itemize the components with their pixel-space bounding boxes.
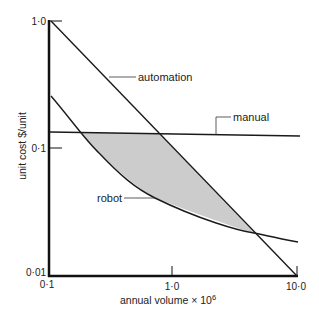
x-tick-label-10: 10·0 <box>286 281 306 292</box>
x-axis-title-exp: 6 <box>212 293 216 302</box>
robot-label: robot <box>97 192 122 204</box>
manual-label: manual <box>233 111 269 123</box>
y-tick-label-1: 1·0 <box>32 16 47 27</box>
automation-line <box>51 21 297 276</box>
robot-advantage-region <box>81 133 254 233</box>
y-axis-title: unit cost $/unit <box>16 112 28 180</box>
y-tick-label-0.01: 0·01 <box>26 267 46 278</box>
cost-volume-chart: automation manual robot 1·0 0·1 0·01 0·1… <box>0 0 319 319</box>
manual-leader <box>216 117 231 135</box>
automation-label: automation <box>138 71 192 83</box>
x-axis-title: annual volume × 106 <box>120 293 216 306</box>
x-axis-title-main: annual volume × 10 <box>120 294 212 306</box>
x-tick-label-1: 1·0 <box>165 281 180 292</box>
y-tick-label-0.1: 0·1 <box>32 143 47 154</box>
x-tick-label-0.1: 0·1 <box>40 279 55 290</box>
